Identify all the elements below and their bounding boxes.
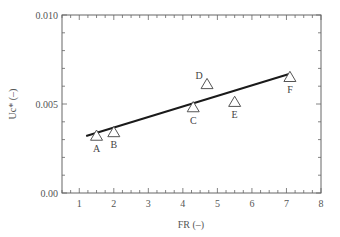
x-tick-label: 4 [180,198,185,209]
data-point-b: B [108,126,120,150]
x-tick-label: 3 [146,198,151,209]
triangle-marker-icon [187,102,199,112]
point-label: B [110,139,117,150]
x-tick-label: 1 [77,198,82,209]
triangle-marker-icon [284,71,296,81]
regression-line [86,74,290,136]
x-tick-label: 2 [111,198,116,209]
axes: 123456780.000.0050.010 [36,10,324,210]
x-axis-title: FR (–) [178,219,204,231]
triangle-marker-icon [229,96,241,106]
x-tick-label: 7 [284,198,289,209]
point-label: A [93,143,101,154]
data-point-d: D [195,70,213,88]
y-tick-label: 0.010 [36,10,59,21]
scatter-chart: 123456780.000.0050.010 ABCDEF FR (–) Uc*… [0,0,340,237]
point-label: C [190,115,197,126]
x-tick-label: 8 [319,198,324,209]
x-tick-label: 5 [215,198,220,209]
y-tick-label: 0.005 [36,99,59,110]
data-points: ABCDEF [91,70,296,154]
point-label: E [232,109,238,120]
y-axis-title: Uc* (–) [7,89,19,120]
y-tick-label: 0.00 [41,188,59,199]
point-label: D [195,70,202,81]
triangle-marker-icon [201,78,213,88]
fit-line [86,74,290,136]
point-label: F [287,84,293,95]
x-tick-label: 6 [249,198,254,209]
data-point-e: E [229,96,241,120]
